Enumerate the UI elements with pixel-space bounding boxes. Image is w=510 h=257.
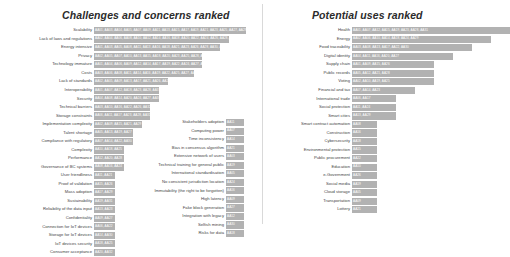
challenge-secondary-bar: AA18 — [226, 230, 244, 237]
potential-use-bar-codes: AA11, AA24 — [353, 106, 370, 109]
challenge-secondary-bar: AA05 — [226, 170, 244, 177]
challenge-label: Proof of validation — [0, 182, 94, 187]
potential-use-bar-codes: AA08 — [353, 123, 361, 126]
bar-row: Consumer acceptanceAA20, AA32 — [0, 249, 246, 256]
potential-use-bar-codes: AA21 — [353, 208, 361, 211]
challenge-bar-codes: AA06, AA11, AA17, AA23, AA28, AA31 — [95, 114, 150, 117]
potential-use-label: Cybersecurity — [258, 139, 352, 144]
challenge-bar-codes: AA13, AA23 — [95, 208, 112, 211]
bar-row: Supply chainAA01, AA09, AA15, AA26 — [258, 61, 510, 68]
challenge-bar: AA03, AA06, AA08, AA11, AA14, AA16, AA19… — [94, 70, 194, 77]
challenge-label: Connection for IoT devices — [0, 225, 94, 230]
bar-row: Bias in consensus algorithmAA21 — [118, 145, 244, 152]
potential-use-label: Social protection — [258, 105, 352, 110]
potential-use-bar: AA21 — [352, 206, 377, 213]
challenge-bar-codes: AA01, AA03, AA05, AA08, AA11, AA13, AA16… — [95, 46, 220, 49]
challenge-label: IoT devices security — [0, 242, 94, 247]
bar-row: Stakeholders adoptionAA11 — [118, 119, 244, 126]
bar-row: High latencyAA09 — [118, 196, 244, 203]
challenge-label: Interoperability — [0, 88, 94, 93]
bar-row: Environmental protectionAA15 — [258, 146, 510, 153]
potential-use-bar: AA19 — [352, 181, 377, 188]
challenge-bar: AA11, AA21 — [94, 172, 115, 179]
bar-row: Computing powerAA07 — [118, 128, 244, 135]
potential-use-bar-codes: AA05 — [353, 191, 361, 194]
challenge-bar-codes: AA20, AA32 — [95, 251, 112, 254]
challenge-label: Security — [0, 97, 94, 102]
potential-use-label: Digital identity — [258, 54, 352, 59]
bar-row: InteroperabilityAA01, AA07, AA12, AA18, … — [0, 87, 246, 94]
potential-use-bar-codes: AA03, AA08, AA13, AA17, AA22, AA30 — [353, 46, 409, 49]
bar-row: EducationAA10 — [258, 164, 510, 171]
potential-use-bar: AA01, AA09, AA15, AA26 — [352, 61, 434, 68]
challenge-bar-codes: AA02, AA05, AA09, AA13, AA17, AA21, AA26… — [95, 80, 168, 83]
challenge-bar: AA19, AA31 — [94, 198, 115, 205]
challenge-secondary-bar-codes: AA07 — [227, 129, 235, 132]
potential-use-label: Public records — [258, 71, 352, 76]
challenge-secondary-bar-codes: AA18 — [227, 232, 235, 235]
challenge-bar-codes: AA02, AA05, AA07, AA10, AA13, AA15, AA18… — [95, 55, 202, 58]
right-panel-title: Potential uses ranked — [312, 9, 423, 21]
challenge-label: Sustainability — [0, 199, 94, 204]
bar-row: TransportationAA09 — [258, 198, 510, 205]
potential-use-label: Health — [258, 28, 352, 33]
challenge-bar: AA06, AA22 — [94, 223, 115, 230]
challenge-secondary-bar: AA16 — [226, 187, 244, 194]
potential-use-bar-codes: AA19 — [353, 183, 361, 186]
challenge-label: Lack of standards — [0, 79, 94, 84]
challenge-secondary-bar: AA12 — [226, 213, 244, 220]
challenge-bar-codes: AA04, AA08, AA14, AA20, AA24, AA27, AA30 — [95, 97, 159, 100]
potential-uses-chart: HealthAA01, AA07, AA12, AA15, AA19, AA23… — [258, 27, 510, 215]
bar-row: Technology immatureAA01, AA04, AA06, AA0… — [0, 61, 246, 68]
challenge-secondary-label: Integration with legacy — [118, 214, 226, 219]
bar-row: ScalabilityAA01, AA03, AA04, AA05, AA07,… — [0, 27, 246, 34]
challenge-label: Storage constraints — [0, 114, 94, 119]
challenge-bar: AA03, AA10, AA16, AA22, AA26, AA32 — [94, 104, 150, 111]
potential-use-label: Voting — [258, 79, 352, 84]
challenge-label: Mass adoption — [0, 190, 94, 195]
potential-use-bar: AA07, AA14, AA23 — [352, 87, 415, 94]
potential-use-bar: AA02, AA10, AA19, AA25 — [352, 78, 434, 85]
potential-use-bar: AA09 — [352, 198, 377, 205]
challenge-bar: AA09, AA27 — [94, 215, 115, 222]
potential-use-bar: AA10 — [352, 164, 377, 171]
challenge-bar-codes: AA01, AA04, AA06, AA09, AA12, AA14, AA17… — [95, 63, 202, 66]
challenge-label: Lack of laws and regulations — [0, 37, 94, 42]
potential-use-label: Social media — [258, 182, 352, 187]
potential-use-label: Education — [258, 165, 352, 170]
potential-use-bar: AA26 — [352, 172, 377, 179]
potential-use-label: Supply chain — [258, 62, 352, 67]
potential-use-bar: AA13, AA29 — [352, 112, 396, 119]
potential-use-bar-codes: AA05, AA12, AA21, AA28 — [353, 72, 390, 75]
challenge-secondary-bar: AA24 — [226, 179, 244, 186]
challenge-secondary-bar-codes: AA19 — [227, 164, 235, 167]
bar-row: EnergyAA02, AA06, AA10, AA14, AA18, AA24… — [258, 36, 510, 43]
potential-use-bar: AA02, AA06, AA10, AA14, AA18, AA24, AA29 — [352, 36, 491, 43]
bar-row: Social mediaAA19 — [258, 181, 510, 188]
bar-row: Public recordsAA05, AA12, AA21, AA28 — [258, 70, 510, 77]
potential-use-bar-codes: AA16 — [353, 131, 361, 134]
challenge-secondary-bar-codes: AA05 — [227, 172, 235, 175]
challenge-label: Costs — [0, 71, 94, 76]
challenge-secondary-bar-codes: AA11 — [227, 121, 235, 124]
bar-row: Selfish miningAA30 — [118, 221, 244, 228]
potential-use-label: Environmental protection — [258, 148, 352, 153]
bar-row: e-GovernmentAA26 — [258, 172, 510, 179]
bar-row: VotingAA02, AA10, AA19, AA25 — [258, 78, 510, 85]
bar-row: IoT devices securityAA18, AA25 — [0, 240, 246, 247]
challenge-bar: AA04, AA08, AA14, AA20, AA24, AA27, AA30 — [94, 95, 159, 102]
bar-row: International tradeAA06, AA17 — [258, 95, 510, 102]
potential-use-bar-codes: AA04, AA11, AA16, AA20, AA27 — [353, 55, 399, 58]
bar-row: Digital identityAA04, AA11, AA16, AA20, … — [258, 53, 510, 60]
challenge-bar-codes: AA18, AA25 — [95, 242, 112, 245]
potential-use-bar: AA04, AA11, AA16, AA20, AA27 — [352, 53, 453, 60]
challenges-secondary-chart: Stakeholders adoptionAA11Computing power… — [118, 119, 244, 238]
potential-use-bar: AA22 — [352, 155, 377, 162]
challenge-label: Technical barriers — [0, 105, 94, 110]
challenge-bar: AA01, AA04, AA06, AA09, AA12, AA14, AA17… — [94, 61, 202, 68]
challenge-secondary-bar: AA03 — [226, 153, 244, 160]
challenge-secondary-bar-codes: AA09 — [227, 198, 235, 201]
challenge-label: Performance — [0, 156, 94, 161]
bar-row: ConstructionAA16 — [258, 129, 510, 136]
challenge-bar: AA01, AA07, AA12, AA18, AA23, AA28, AA31 — [94, 87, 159, 94]
